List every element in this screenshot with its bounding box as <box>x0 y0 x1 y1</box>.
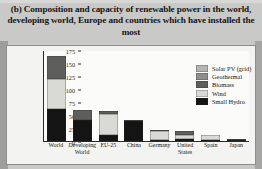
legend-item[interactable]: Solar PV (grid) <box>196 64 251 72</box>
chart-figure: Gigawatts 0255075100125150175 Solar PV (… <box>6 45 256 165</box>
legend-swatch <box>196 98 208 105</box>
bar-stack[interactable] <box>150 51 169 141</box>
bar-segment <box>150 131 169 140</box>
legend-label: Solar PV (grid) <box>212 65 251 72</box>
x-tick-label: China <box>121 142 147 164</box>
legend-item[interactable]: Geothermal <box>196 72 251 80</box>
bar-segment <box>73 110 92 120</box>
x-axis-labels: WorldDeveloping WorldEU-25ChinaGermanyUn… <box>43 142 249 164</box>
x-tick-label: Spain <box>198 142 224 164</box>
page-right-edge <box>255 41 262 169</box>
bar-stack[interactable] <box>99 51 118 141</box>
legend-label: Wind <box>212 90 226 97</box>
figure-page: (b) Composition and capacity of renewabl… <box>0 0 262 169</box>
legend-item[interactable]: Wind <box>196 89 251 97</box>
bar-segment <box>47 79 66 110</box>
bar-segment <box>99 114 118 135</box>
x-tick-label: World <box>43 142 69 164</box>
bar-segment <box>150 140 169 141</box>
bar-stack[interactable] <box>47 51 66 141</box>
x-tick-label: United States <box>172 142 198 164</box>
bar-stack[interactable] <box>124 51 143 141</box>
legend-swatch <box>196 65 208 72</box>
legend-item[interactable]: Biomass <box>196 81 251 89</box>
bar-stack[interactable] <box>73 51 92 141</box>
legend-item[interactable]: Small Hydro <box>196 98 251 106</box>
legend-swatch <box>196 81 208 88</box>
bar-segment <box>47 56 66 78</box>
chart-legend: Solar PV (grid)GeothermalBiomassWindSmal… <box>196 64 251 106</box>
legend-label: Small Hydro <box>212 98 245 105</box>
bar-segment <box>99 135 118 141</box>
bar-segment <box>175 139 194 141</box>
plot-area: Gigawatts 0255075100125150175 Solar PV (… <box>43 51 249 142</box>
x-tick-label: Japan <box>223 142 249 164</box>
bar-segment <box>47 109 66 141</box>
page-top-band <box>0 0 262 3</box>
bar-segment <box>124 121 143 141</box>
legend-swatch <box>196 73 208 80</box>
bar-segment <box>201 140 220 141</box>
figure-caption: (b) Composition and capacity of renewabl… <box>0 4 262 38</box>
x-tick-label: Developing World <box>69 142 96 164</box>
legend-swatch <box>196 90 208 97</box>
bar-segment <box>73 120 92 141</box>
x-tick-label: EU-25 <box>96 142 122 164</box>
legend-label: Biomass <box>212 81 234 88</box>
bar-stack[interactable] <box>175 51 194 141</box>
legend-label: Geothermal <box>212 73 242 80</box>
x-tick-label: Germany <box>147 142 173 164</box>
bar-segment <box>227 140 246 141</box>
